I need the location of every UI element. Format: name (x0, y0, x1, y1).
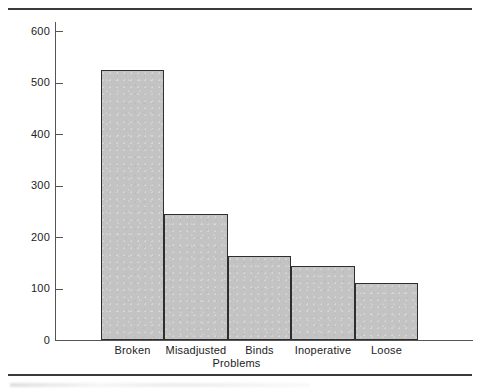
plot-area (55, 22, 473, 340)
y-tick-0 (56, 340, 63, 341)
y-tick-label: 500 (16, 77, 50, 88)
scan-artifact (10, 383, 310, 387)
y-tick-label-wrap: 500 (12, 77, 50, 88)
y-tick-label: 600 (16, 26, 50, 37)
x-category-label-binds: Binds (228, 345, 291, 356)
y-tick-label: 100 (16, 283, 50, 294)
y-tick-label: 200 (16, 232, 50, 243)
y-tick-label: 300 (16, 180, 50, 191)
bar-misadjusted (164, 214, 228, 340)
bar-binds (228, 256, 291, 340)
x-axis-line (55, 340, 473, 341)
y-tick-label: 400 (16, 129, 50, 140)
bar-inoperative (291, 266, 355, 340)
x-axis-title: Problems (55, 358, 418, 369)
x-category-label-broken: Broken (101, 345, 164, 356)
y-tick-label: 0 (16, 335, 50, 346)
x-category-label-inoperative: Inoperative (291, 345, 355, 356)
y-tick-label-wrap: 300 (12, 180, 50, 191)
figure-top-rule (8, 8, 472, 10)
x-category-label-loose: Loose (355, 345, 418, 356)
y-tick-label-wrap: 600 (12, 26, 50, 37)
figure-container: Cases 0100200300400500600 BrokenMisadjus… (0, 0, 480, 391)
x-category-label-misadjusted: Misadjusted (164, 345, 228, 356)
y-tick-label-wrap: 400 (12, 129, 50, 140)
bar-loose (355, 283, 418, 340)
figure-bottom-rule (8, 374, 472, 376)
y-tick-label-wrap: 100 (12, 283, 50, 294)
y-tick-label-wrap: 0 (12, 335, 50, 346)
y-tick-label-wrap: 200 (12, 232, 50, 243)
bar-broken (101, 70, 164, 340)
